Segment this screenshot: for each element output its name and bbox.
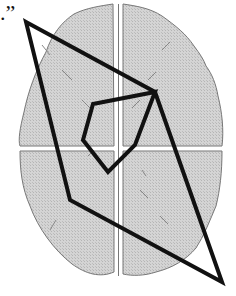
brain-diagram — [0, 0, 236, 296]
